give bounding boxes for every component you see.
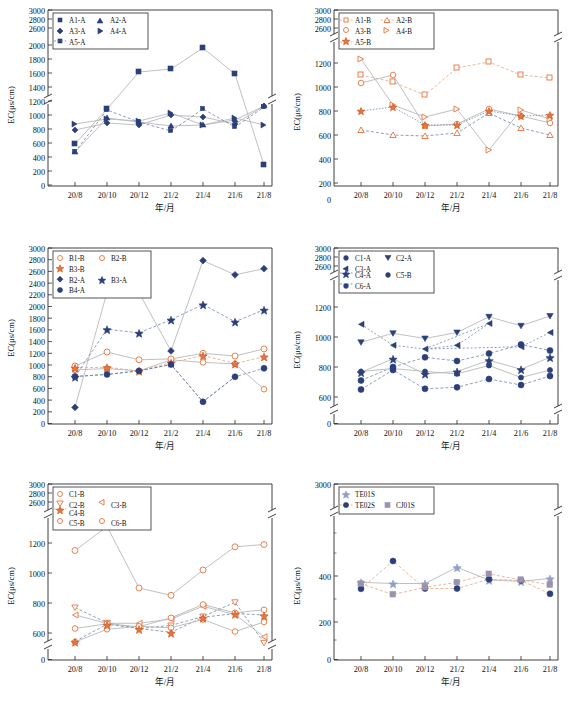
svg-text:800: 800 — [33, 126, 45, 135]
panel-c-a-ylabel: EC(μs/cm) — [292, 331, 302, 369]
panel-b-ytick-labels: 3000 2800 2600 2400 2200 2000 1800 1600 … — [29, 245, 45, 430]
panel-a-a-ylabel: EC(μs/cm) — [6, 86, 16, 124]
legend-item-a5a: A5-A — [69, 39, 86, 47]
svg-text:3000: 3000 — [315, 481, 331, 490]
svg-text:20/8: 20/8 — [354, 429, 369, 438]
svg-text:21/6: 21/6 — [228, 665, 243, 674]
panel-b-xtick-labels: 20/8 20/10 20/12 21/2 21/4 21/6 21/8 — [68, 429, 272, 438]
legend-item-c4b: C4-B — [69, 510, 85, 518]
svg-text:800: 800 — [319, 364, 331, 373]
svg-text:1000: 1000 — [29, 362, 45, 371]
legend-item-te02s: TE02S — [355, 502, 375, 510]
panel-a-b-ytick-labels: 3000 2800 2600 1200 1000 800 600 400 200… — [315, 7, 331, 206]
legend-item-c1a: C1-A — [355, 255, 372, 263]
legend-item-a2b: A2-B — [396, 17, 412, 25]
svg-text:20/8: 20/8 — [68, 665, 83, 674]
svg-text:3000: 3000 — [29, 7, 45, 16]
panel-b-yticks — [48, 248, 52, 424]
svg-text:2800: 2800 — [29, 256, 45, 265]
svg-text:0: 0 — [327, 196, 331, 205]
panel-te-ytick-labels: 3000 400 200 0 — [315, 481, 331, 666]
svg-text:21/2: 21/2 — [450, 191, 465, 200]
legend-item-c6a: C6-A — [355, 283, 372, 291]
legend-item-b1b: B1-B — [69, 255, 85, 263]
svg-text:1200: 1200 — [29, 350, 45, 359]
svg-text:21/6: 21/6 — [228, 191, 243, 200]
svg-text:2800: 2800 — [315, 16, 331, 25]
svg-text:20/10: 20/10 — [384, 665, 403, 674]
panel-b-legend: B1-B B2-B B3-B B2-A B3-A B4-A — [53, 251, 151, 298]
panel-a-b-markers — [357, 56, 554, 153]
svg-text:3000: 3000 — [29, 481, 45, 490]
svg-text:21/6: 21/6 — [514, 191, 529, 200]
svg-text:21/8: 21/8 — [257, 191, 272, 200]
svg-text:2600: 2600 — [29, 268, 45, 277]
svg-text:600: 600 — [33, 385, 45, 394]
panel-te: 3000 400 200 0 20/8 20/10 20/12 21/2 21/… — [286, 476, 572, 713]
svg-text:21/8: 21/8 — [543, 429, 558, 438]
panel-b-ylabel: EC(μs/cm) — [6, 319, 16, 357]
svg-text:2600: 2600 — [315, 25, 331, 34]
svg-text:3000: 3000 — [315, 245, 331, 254]
svg-text:21/8: 21/8 — [257, 429, 272, 438]
svg-text:21/8: 21/8 — [543, 665, 558, 674]
svg-text:0: 0 — [327, 656, 331, 665]
svg-text:1200: 1200 — [29, 98, 45, 107]
svg-text:0: 0 — [41, 656, 45, 665]
legend-item-a5b: A5-B — [355, 39, 371, 47]
legend-item-a1b: A1-B — [355, 17, 371, 25]
svg-text:1200: 1200 — [315, 60, 331, 69]
panel-b-xticks — [75, 420, 264, 424]
panel-c-b: 3000 2800 2600 1200 1000 800 600 0 20/8 … — [0, 476, 286, 713]
svg-text:21/4: 21/4 — [482, 665, 497, 674]
panel-te-xlabel: 年/月 — [441, 676, 461, 687]
panel-te-xtick-labels: 20/8 20/10 20/12 21/2 21/4 21/6 21/8 — [354, 665, 558, 674]
legend-item-c5b2: C5-B — [69, 520, 85, 528]
legend-item-c5b: C5-B — [396, 272, 412, 280]
svg-text:800: 800 — [33, 600, 45, 609]
svg-text:2800: 2800 — [315, 254, 331, 263]
legend-item-b2a: B2-A — [69, 277, 86, 285]
svg-text:21/2: 21/2 — [164, 429, 179, 438]
svg-text:600: 600 — [33, 630, 45, 639]
legend-item-c6b: C6-B — [111, 520, 127, 528]
panel-c-a-xticks — [361, 420, 550, 424]
svg-text:2000: 2000 — [29, 42, 45, 51]
svg-text:21/4: 21/4 — [482, 191, 497, 200]
svg-text:1000: 1000 — [315, 84, 331, 93]
legend-item-cj01s: CJ01S — [396, 502, 415, 510]
panel-a-a-series-lines — [75, 48, 264, 165]
panel-a-a-xlabel: 年/月 — [155, 202, 175, 213]
legend-item-c3b: C3-B — [111, 502, 127, 510]
panel-a-a-ytick-labels: 3000 2800 2600 2000 1800 1600 1400 1200 … — [29, 7, 45, 191]
svg-text:20/8: 20/8 — [354, 665, 369, 674]
svg-text:21/4: 21/4 — [196, 429, 211, 438]
legend-item-a4b: A4-B — [396, 28, 412, 36]
svg-text:0: 0 — [327, 420, 331, 429]
svg-text:0: 0 — [41, 420, 45, 429]
panel-te-legend: TE01S TE02S CJ01S — [339, 487, 434, 514]
svg-text:400: 400 — [319, 573, 331, 582]
panel-te-ylabel: EC(μs/cm) — [292, 567, 302, 605]
panel-c-a-xtick-labels: 20/8 20/10 20/12 21/2 21/4 21/6 21/8 — [354, 429, 558, 438]
svg-text:20/8: 20/8 — [354, 191, 369, 200]
legend-item-a3a: A3-A — [69, 28, 86, 36]
panel-b-xlabel: 年/月 — [155, 440, 175, 451]
svg-text:20/12: 20/12 — [130, 429, 149, 438]
svg-text:200: 200 — [33, 168, 45, 177]
svg-text:2600: 2600 — [29, 499, 45, 508]
legend-item-b3b: B3-B — [69, 266, 85, 274]
panel-a-a: 3000 2800 2600 2000 1800 1600 1400 1200 … — [0, 0, 286, 238]
legend-item-c2a: C2-A — [396, 255, 413, 263]
panel-c-b-plot: 3000 2800 2600 1200 1000 800 600 0 20/8 … — [0, 476, 286, 713]
panel-c-b-markers — [71, 524, 268, 647]
svg-text:1000: 1000 — [29, 570, 45, 579]
legend-item-a2a: A2-A — [110, 17, 127, 25]
svg-text:200: 200 — [319, 619, 331, 628]
svg-text:20/10: 20/10 — [384, 429, 403, 438]
panel-c-a-markers — [357, 314, 554, 393]
panel-a-b-xticks — [361, 182, 550, 186]
panel-c-b-ylabel: EC(μs/cm) — [6, 567, 16, 605]
svg-text:20/8: 20/8 — [68, 191, 83, 200]
panel-c-a-plot: 3000 2800 2600 1200 1000 800 600 0 20/8 … — [286, 238, 572, 476]
